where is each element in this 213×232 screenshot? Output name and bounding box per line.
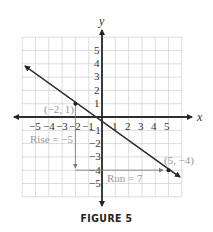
svg-text:−5: −5 [29,120,41,132]
svg-text:4: 4 [151,120,157,132]
svg-text:2: 2 [125,120,131,132]
svg-text:3: 3 [94,70,100,82]
point-a-label: (−2, 1) [44,103,74,116]
svg-text:3: 3 [138,120,144,132]
svg-text:5: 5 [94,44,100,56]
svg-text:−3: −3 [89,150,101,162]
svg-text:−1: −1 [89,124,101,136]
svg-text:1: 1 [94,97,100,109]
svg-text:−2: −2 [89,137,101,149]
svg-text:2: 2 [94,84,100,96]
run-label: Run = 7 [107,172,143,184]
rise-label: Rise = −5 [30,133,73,145]
svg-text:−3: −3 [56,120,68,132]
point-b-label: (5, −4) [164,154,194,167]
x-axis-label: x [196,110,203,124]
coordinate-plane: x y −5 −4 −3 −2 −1 1 2 3 4 5 5 4 3 2 1 −… [0,0,213,232]
figure: x y −5 −4 −3 −2 −1 1 2 3 4 5 5 4 3 2 1 −… [0,0,213,232]
svg-text:5: 5 [164,120,170,132]
figure-caption: FIGURE 5 [16,212,197,225]
svg-text:−2: −2 [69,120,81,132]
svg-text:−4: −4 [43,120,55,132]
svg-text:4: 4 [94,57,100,69]
point-b [167,168,171,172]
y-axis-label: y [98,14,105,28]
svg-text:−5: −5 [89,177,101,189]
